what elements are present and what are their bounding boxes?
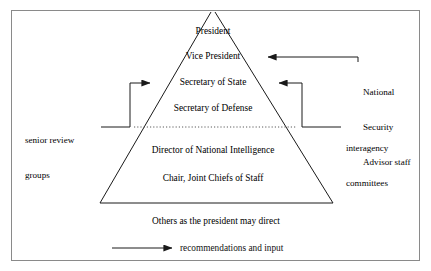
interagency-committees-line-1: interagency [346, 143, 422, 155]
pyramid-tier-director-of-national-intelligence: Director of National Intelligence [152, 145, 275, 155]
annotation-senior-review-groups: senior review groups [25, 112, 97, 205]
legend-label: recommendations and input [180, 242, 283, 255]
figure-canvas: President Vice President Secretary of St… [0, 0, 431, 271]
senior-review-groups-line-2: groups [25, 170, 97, 182]
pyramid-tier-secretary-of-defense: Secretary of Defense [174, 103, 253, 113]
nsa-staff-line-1: National [363, 87, 427, 99]
interagency-committees-line-2: committees [346, 178, 422, 190]
pyramid-tier-president: President [196, 26, 231, 36]
pyramid-tier-chair-joint-chiefs-of-staff: Chair, Joint Chiefs of Staff [163, 173, 264, 183]
pyramid-tier-secretary-of-state: Secretary of State [180, 77, 247, 87]
senior-review-groups-line-1: senior review [25, 135, 97, 147]
pyramid-tier-vice-president: Vice President [186, 51, 240, 61]
annotation-interagency-committees: interagency committees [346, 120, 422, 213]
others-as-president-may-direct-note: Others as the president may direct [152, 216, 280, 226]
